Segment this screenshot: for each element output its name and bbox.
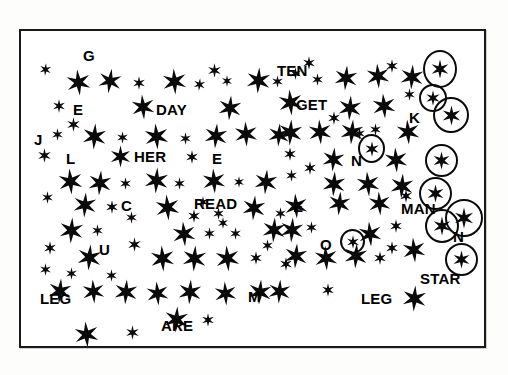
star-shape xyxy=(179,132,192,145)
star-shape xyxy=(400,284,429,313)
star-shape xyxy=(119,177,132,190)
word-label: ARE xyxy=(161,318,193,333)
star-shape xyxy=(453,207,475,229)
star-shape xyxy=(39,263,52,276)
star-shape xyxy=(252,168,280,196)
circled-star-marker[interactable] xyxy=(433,97,469,133)
star-shape xyxy=(364,141,380,157)
star-shape xyxy=(385,241,399,255)
word-label: K xyxy=(409,110,420,125)
star-shape xyxy=(200,167,228,195)
star-shape xyxy=(283,147,297,161)
star-shape xyxy=(382,146,410,174)
star-shape xyxy=(142,166,171,195)
word-label: TEN xyxy=(277,63,308,78)
star-shape xyxy=(64,68,94,98)
star-shape xyxy=(38,62,52,76)
star-shape xyxy=(144,280,171,307)
circled-star-marker[interactable] xyxy=(340,229,365,254)
star-shape xyxy=(148,244,177,273)
star-shape xyxy=(66,117,81,132)
star-shape xyxy=(127,237,142,252)
star-field-frame: GEDAYJLHERECREADULEGAREMTENGETEONLEGKMAN… xyxy=(19,29,486,348)
star-shape xyxy=(321,283,335,297)
star-shape xyxy=(389,219,403,233)
star-shape xyxy=(398,63,426,91)
star-shape xyxy=(41,191,54,204)
word-label: MAN xyxy=(401,201,436,216)
star-shape xyxy=(266,278,293,305)
word-label: E xyxy=(73,102,83,117)
star-shape xyxy=(180,244,209,273)
star-shape xyxy=(91,224,104,237)
star-shape xyxy=(217,217,229,229)
circled-star-marker[interactable] xyxy=(425,144,458,177)
star-shape xyxy=(213,244,242,273)
star-shape xyxy=(57,216,86,245)
star-shape xyxy=(400,236,428,264)
word-label: LEG xyxy=(40,291,71,306)
star-shape xyxy=(201,313,215,327)
star-shape xyxy=(276,118,305,147)
star-shape xyxy=(37,148,52,163)
circled-star-marker[interactable] xyxy=(358,134,385,163)
star-shape xyxy=(95,66,124,95)
word-label: L xyxy=(66,151,75,166)
star-shape xyxy=(305,221,318,234)
word-label: U xyxy=(99,242,110,257)
star-shape xyxy=(233,176,245,188)
word-label: E xyxy=(212,151,222,166)
star-shape xyxy=(142,122,171,151)
star-shape xyxy=(112,278,140,306)
star-shape xyxy=(249,251,263,265)
word-label: LEG xyxy=(361,291,392,306)
star-shape xyxy=(346,235,360,249)
star-shape xyxy=(153,193,182,222)
star-shape xyxy=(403,88,416,101)
star-shape xyxy=(430,59,450,79)
word-label: READ xyxy=(194,196,237,211)
star-field-canvas: GEDAYJLHERECREADULEGAREMTENGETEONLEGKMAN… xyxy=(21,31,484,346)
star-shape xyxy=(173,177,186,190)
word-label: N xyxy=(351,153,362,168)
word-label: HER xyxy=(134,149,166,164)
star-shape xyxy=(109,145,132,168)
star-shape xyxy=(80,278,107,305)
star-shape xyxy=(105,200,119,214)
star-shape xyxy=(176,278,204,306)
word-label: N xyxy=(453,229,464,244)
star-shape xyxy=(432,151,451,170)
star-shape xyxy=(203,227,216,240)
star-shape xyxy=(51,128,64,141)
worksheet-page: GEDAYJLHERECREADULEGAREMTENGETEONLEGKMAN… xyxy=(0,0,508,375)
star-shape xyxy=(366,190,393,217)
word-label: J xyxy=(34,132,43,147)
star-shape xyxy=(370,92,398,120)
star-shape xyxy=(385,59,399,73)
circled-star-marker[interactable] xyxy=(423,50,457,88)
star-shape xyxy=(52,99,66,113)
word-label: M xyxy=(248,289,261,304)
star-shape xyxy=(221,75,233,87)
star-shape xyxy=(80,122,109,151)
word-label: STAR xyxy=(420,271,461,286)
star-shape xyxy=(43,241,57,255)
star-shape xyxy=(303,161,317,175)
star-shape xyxy=(285,169,298,182)
star-shape xyxy=(320,146,347,173)
word-label: O xyxy=(320,237,332,252)
star-shape xyxy=(452,250,471,269)
star-shape xyxy=(441,105,462,126)
star-shape xyxy=(207,63,222,78)
star-shape xyxy=(202,122,230,150)
star-shape xyxy=(261,239,274,252)
word-label: DAY xyxy=(156,102,187,117)
star-shape xyxy=(244,66,273,95)
star-shape xyxy=(129,93,157,121)
star-shape xyxy=(232,120,259,147)
star-shape xyxy=(192,77,206,91)
star-shape xyxy=(125,325,140,340)
star-shape xyxy=(278,216,306,244)
star-shape xyxy=(326,190,353,217)
star-shape xyxy=(229,227,242,240)
